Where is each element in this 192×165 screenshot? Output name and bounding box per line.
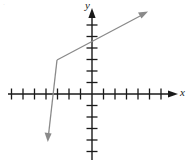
graph-figure: · bbox=[0, 0, 192, 165]
curve-up-arrow-icon bbox=[138, 12, 148, 19]
y-axis-label: y bbox=[85, 0, 90, 11]
coordinate-plane-svg bbox=[0, 0, 192, 165]
x-axis-label: x bbox=[180, 87, 185, 98]
x-axis bbox=[8, 90, 178, 97]
curve-down-arrow-icon bbox=[45, 133, 52, 142]
function-curve bbox=[45, 12, 148, 143]
x-axis-arrow-icon bbox=[168, 90, 178, 97]
curve-steep-branch bbox=[49, 60, 58, 135]
curve-gentle-branch bbox=[57, 15, 142, 60]
y-axis bbox=[88, 8, 95, 160]
